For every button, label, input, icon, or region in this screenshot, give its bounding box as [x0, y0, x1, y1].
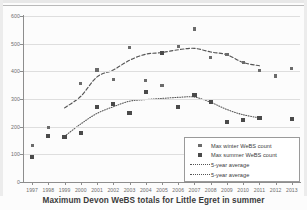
- winter-data-point: [47, 126, 50, 129]
- x-axis-tick-mark: [97, 182, 98, 185]
- winter-data-point: [242, 61, 245, 64]
- winter-data-point: [95, 68, 98, 71]
- dotted-line-icon: [189, 174, 211, 175]
- x-axis-tick-mark: [227, 182, 228, 185]
- chart-figure: 0100200300400500600 19971998199920002001…: [0, 6, 307, 210]
- gridline: [24, 99, 300, 100]
- gridline: [24, 16, 300, 17]
- winter-data-point: [79, 82, 82, 85]
- figure-page: 0100200300400500600 19971998199920002001…: [0, 0, 307, 210]
- winter-data-point: [144, 79, 147, 82]
- legend-label: Max winter WeBS count: [211, 143, 272, 149]
- legend-item-winter-count: Max winter WeBS count: [189, 141, 295, 151]
- legend-label: Max summer WeBS count: [211, 152, 277, 158]
- summer-data-point: [127, 111, 131, 115]
- x-axis-tick-mark: [65, 182, 66, 185]
- winter-data-point: [274, 74, 277, 77]
- x-axis-tick-mark: [130, 182, 131, 185]
- summer-data-point: [95, 105, 99, 109]
- summer-5-year-average-line: [65, 97, 260, 137]
- summer-data-point: [160, 51, 164, 55]
- x-axis-tick-mark: [211, 182, 212, 185]
- plot-area: 0100200300400500600 19971998199920002001…: [0, 6, 307, 194]
- x-axis-tick-mark: [259, 182, 260, 185]
- summer-data-point: [192, 93, 196, 97]
- winter-data-point: [160, 84, 163, 87]
- winter-data-point: [225, 53, 228, 56]
- x-axis-tick-mark: [32, 182, 33, 185]
- legend-label: 5-year average: [211, 162, 249, 168]
- gridline: [24, 44, 300, 45]
- winter-data-point: [177, 45, 180, 48]
- x-axis-tick-mark: [276, 182, 277, 185]
- y-axis-tick-mark: [20, 182, 23, 183]
- x-axis-tick-mark: [81, 182, 82, 185]
- summer-data-point: [241, 118, 245, 122]
- page-edge-top: [0, 0, 307, 3]
- y-axis-tick-mark: [20, 154, 23, 155]
- y-axis-tick-label: 400: [0, 68, 20, 74]
- winter-data-point: [258, 69, 261, 72]
- y-axis-tick-label: 0: [0, 179, 20, 185]
- y-axis-tick-mark: [20, 44, 23, 45]
- y-axis-tick-label: 500: [0, 41, 20, 47]
- winter-data-point: [209, 56, 212, 59]
- x-axis-tick-mark: [146, 182, 147, 185]
- summer-data-point: [176, 105, 180, 109]
- y-axis-tick-label: 300: [0, 96, 20, 102]
- y-axis-tick-mark: [20, 99, 23, 100]
- legend-item-summer-count: Max summer WeBS count: [189, 151, 295, 161]
- chart-legend: Max winter WeBS count Max summer WeBS co…: [184, 137, 300, 182]
- square-large-icon: [189, 153, 211, 157]
- summer-data-point: [225, 120, 229, 124]
- x-axis-tick-mark: [162, 182, 163, 185]
- winter-data-point: [128, 46, 131, 49]
- x-axis-tick-mark: [292, 182, 293, 185]
- y-axis-tick-label: 200: [0, 124, 20, 130]
- x-axis-tick-mark: [243, 182, 244, 185]
- y-axis-tick-mark: [20, 71, 23, 72]
- winter-data-point: [31, 144, 34, 147]
- summer-data-point: [30, 155, 34, 159]
- dashed-line-icon: [189, 164, 211, 165]
- winter-data-point: [290, 67, 293, 70]
- summer-data-point: [46, 134, 50, 138]
- x-axis-tick-label: 2013: [281, 187, 303, 193]
- y-axis-tick-mark: [20, 127, 23, 128]
- legend-label: 5-year average: [211, 172, 249, 178]
- y-axis-tick-label: 100: [0, 151, 20, 157]
- gridline: [24, 127, 300, 128]
- y-axis-tick-label: 600: [0, 13, 20, 19]
- winter-data-point: [193, 27, 196, 30]
- x-axis-tick-mark: [113, 182, 114, 185]
- legend-item-winter-average: 5-year average: [189, 160, 295, 170]
- x-axis-tick-mark: [178, 182, 179, 185]
- figure-caption: Maximum Devon WeBS totals for Little Egr…: [0, 196, 307, 205]
- summer-data-point: [209, 100, 213, 104]
- summer-data-point: [144, 90, 148, 94]
- summer-data-point: [79, 131, 83, 135]
- winter-data-point: [112, 78, 115, 81]
- x-axis-tick-mark: [194, 182, 195, 185]
- y-axis-tick-mark: [20, 16, 23, 17]
- summer-data-point: [111, 102, 115, 106]
- legend-item-summer-average: 5-year average: [189, 170, 295, 180]
- summer-data-point: [290, 117, 294, 121]
- summer-data-point: [62, 135, 66, 139]
- summer-data-point: [257, 116, 261, 120]
- square-small-icon: [189, 144, 211, 147]
- x-axis-tick-mark: [48, 182, 49, 185]
